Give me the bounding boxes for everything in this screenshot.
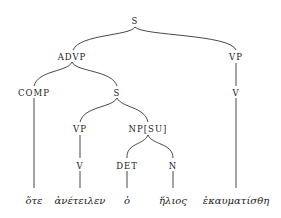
leaf-ho: ὁ [124, 195, 130, 206]
node-advp: ADVP [57, 52, 87, 62]
node-np-su: NP[SU] [129, 124, 168, 134]
node-s-sub: S [114, 88, 121, 98]
node-n: N [169, 161, 177, 171]
node-vp-sub: VP [72, 124, 87, 134]
syntax-tree-diagram: S ADVP VP COMP S V VP NP[SU] V DET N ὅτε… [0, 0, 281, 218]
node-comp: COMP [18, 88, 50, 98]
leaf-helios: ἥλιος [159, 195, 187, 206]
leaf-ekaumatisthe: ἐκαυματίσθη [203, 195, 269, 206]
tree-leaves: ὅτε ἀνέτειλεν ὁ ἥλιος ἐκαυματίσθη [26, 195, 270, 206]
edge-advp-comp [34, 62, 72, 86]
node-v-main: V [231, 88, 239, 98]
node-s-root: S [132, 16, 139, 26]
edge-root-advp [73, 27, 135, 50]
edge-root-vp [135, 27, 236, 50]
leaf-ote: ὅτε [26, 195, 43, 206]
edge-s-vp [80, 98, 117, 122]
leaf-aneteilen: ἀνέτειλεν [55, 195, 106, 206]
edge-np-n [148, 135, 173, 158]
node-det: DET [116, 161, 138, 171]
edge-np-det [127, 135, 148, 158]
node-v-sub: V [75, 161, 83, 171]
edge-advp-s [72, 62, 117, 86]
edge-s-np [117, 98, 148, 122]
node-vp-main: VP [228, 52, 243, 62]
